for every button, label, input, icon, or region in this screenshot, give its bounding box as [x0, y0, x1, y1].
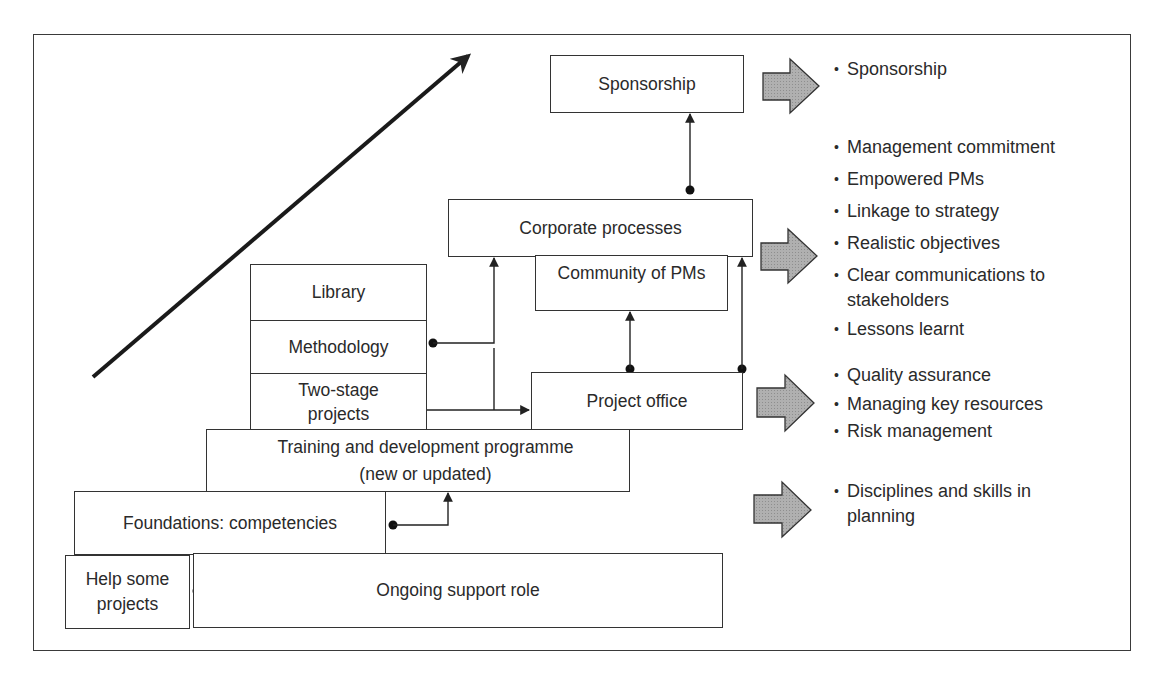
outcome-item: Sponsorship [834, 53, 947, 85]
outcome-item: Realistic objectives [834, 227, 1055, 259]
outcome-item: Empowered PMs [834, 163, 1055, 195]
ongoing-support-role-box: Ongoing support role [193, 553, 723, 628]
library-box: Library [250, 264, 427, 321]
outcome-item: Clear communications tostakeholders [834, 259, 1055, 313]
project-office-box: Project office [531, 372, 743, 430]
methodology-box: Methodology [250, 320, 427, 374]
sponsorship-label: Sponsorship [598, 74, 695, 95]
sponsorship-box: Sponsorship [550, 55, 744, 113]
outcome-item: Managing key resources [834, 391, 1043, 418]
foundations-label: Foundations: competencies [123, 513, 337, 534]
outcome-item: Disciplines and skills inplanning [834, 475, 1031, 529]
outcome-list-project-office: Quality assurance Managing key resources… [834, 359, 1043, 445]
outcome-list-foundations: Disciplines and skills inplanning [834, 475, 1031, 529]
community-of-pms-box: Community of PMs [535, 255, 728, 311]
help-some-projects-box: Help some projects [65, 555, 190, 629]
outcome-item: Lessons learnt [834, 313, 1055, 345]
two-stage-line2: projects [308, 402, 369, 426]
two-stage-projects-box: Two-stage projects [250, 373, 427, 430]
two-stage-line1: Two-stage [298, 378, 379, 402]
ongoing-support-label: Ongoing support role [376, 580, 539, 601]
corporate-processes-box: Corporate processes [448, 199, 753, 257]
corporate-processes-label: Corporate processes [519, 218, 681, 239]
help-line2: projects [97, 592, 158, 617]
methodology-label: Methodology [288, 337, 388, 358]
project-office-label: Project office [587, 391, 688, 412]
outcome-item: Management commitment [834, 131, 1055, 163]
outcome-item: Risk management [834, 418, 1043, 445]
training-line1: Training and development programme [277, 434, 573, 461]
help-line1: Help some [86, 567, 170, 592]
outcome-list-corporate: Management commitment Empowered PMs Link… [834, 131, 1055, 345]
training-line2: (new or updated) [359, 461, 491, 488]
outcome-list-sponsorship: Sponsorship [834, 53, 947, 85]
community-of-pms-label: Community of PMs [558, 263, 706, 284]
training-programme-box: Training and development programme (new … [206, 429, 630, 492]
outcome-item: Quality assurance [834, 359, 1043, 391]
library-label: Library [312, 282, 366, 303]
foundations-box: Foundations: competencies [74, 491, 386, 555]
outcome-item: Linkage to strategy [834, 195, 1055, 227]
